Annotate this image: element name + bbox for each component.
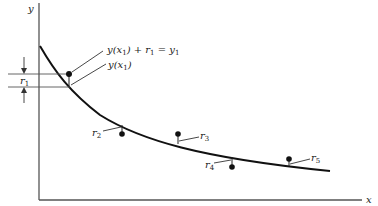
leader-r5 [290,159,310,164]
leader-r3 [179,137,199,141]
leader-r4 [214,160,231,163]
data-point-1 [66,71,72,77]
data-point-3 [175,131,181,137]
y-axis-label: y [27,3,34,14]
x-axis-label: x [366,194,372,205]
data-point-4 [229,164,235,170]
r2-label: r2 [92,127,101,140]
r4-label: r4 [205,159,215,172]
leader-line-curve [71,64,106,85]
data-point-5 [286,156,292,162]
point-equation-label: y(x1) + r1 = y1 [106,44,179,57]
r5-label: r5 [311,152,320,165]
r3-label: r3 [200,130,209,143]
leader-r2 [103,127,121,131]
r1-label: r1 [20,75,29,88]
data-point-2 [119,131,125,137]
curve-value-label: y(x1) [107,59,132,72]
curve-fit-diagram: y x r1 y(x1) + r1 = y1 y(x1) r2 r3 r4 r5 [0,0,378,206]
arrow-down-head [21,68,27,74]
